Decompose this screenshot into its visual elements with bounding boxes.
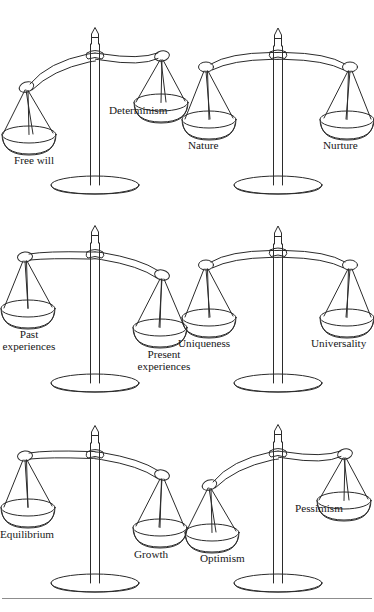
scale-label-universality: Universality <box>311 337 366 349</box>
post-finial <box>92 28 99 45</box>
post-finial <box>275 28 282 46</box>
scale-post <box>91 243 100 383</box>
scale-beam <box>201 448 354 493</box>
post-finial <box>275 226 282 244</box>
scale-beam <box>199 250 358 270</box>
scale-beam <box>17 251 170 281</box>
scale-label-growth: Growth <box>134 548 168 560</box>
scale-base <box>234 374 322 392</box>
scale-past-present-experiences: Past experiences Present experiences <box>2 220 189 410</box>
scale-label-equilibrium: Equilibrium <box>0 528 54 540</box>
fulcrum-collar <box>269 248 287 257</box>
present-experiences-line-2: experiences <box>138 360 191 372</box>
fulcrum-collar <box>86 51 104 60</box>
scale-post <box>274 442 283 583</box>
past-experiences-line-1: Past <box>20 328 39 340</box>
scale-post <box>274 244 283 383</box>
scale-base <box>51 574 139 592</box>
scale-uniqueness-universality: Uniqueness Universality <box>185 220 372 410</box>
scale-beam <box>18 50 171 95</box>
fulcrum-collar <box>269 449 287 458</box>
fulcrum-collar <box>269 50 287 59</box>
scale-pan-left <box>182 269 236 338</box>
scale-base <box>51 176 139 194</box>
fulcrum-collar <box>86 450 104 459</box>
scale-label-nature: Nature <box>188 139 218 151</box>
post-finial <box>92 226 99 244</box>
scale-equilibrium-growth: Equilibrium Growth <box>2 420 189 610</box>
scale-beam <box>199 52 358 72</box>
post-finial <box>92 426 99 444</box>
scale-free-will-determinism: Free will Determinism <box>2 22 189 212</box>
scale-label-optimism: Optimism <box>200 552 245 564</box>
bottom-horizontal-rule <box>2 598 372 599</box>
scale-pan-right <box>320 71 374 140</box>
scale-label-past-experiences: Past experiences <box>0 328 69 353</box>
scale-post <box>91 44 100 185</box>
past-experiences-line-2: experiences <box>3 340 56 352</box>
scale-optimism-pessimism: Optimism Pessimism <box>185 420 372 610</box>
scale-base <box>234 176 322 194</box>
scale-label-determinism: Determinism <box>109 104 167 116</box>
scale-label-free-will: Free will <box>14 154 54 166</box>
scale-nature-nurture: Nature Nurture <box>185 22 372 212</box>
scale-pan-right <box>133 479 187 548</box>
scale-base <box>51 374 139 392</box>
scale-label-uniqueness: Uniqueness <box>178 337 230 349</box>
present-experiences-line-1: Present <box>148 348 181 360</box>
scale-base <box>234 574 322 592</box>
scale-pan-left <box>185 488 239 553</box>
fulcrum-collar <box>86 250 104 259</box>
scale-pan-right <box>320 269 374 338</box>
scale-post <box>274 46 283 185</box>
scale-pan-left <box>182 71 236 140</box>
scale-post <box>91 443 100 583</box>
figure-root: Free will Determinism <box>0 0 374 612</box>
scale-label-nurture: Nurture <box>323 139 358 151</box>
scale-pan-left <box>1 261 55 329</box>
scale-beam <box>17 450 170 481</box>
scale-pan-left <box>2 90 56 155</box>
post-finial <box>275 425 282 443</box>
running-head-strip <box>0 0 374 10</box>
scale-label-pessimism: Pessimism <box>295 502 343 514</box>
scale-pan-left <box>1 460 55 528</box>
